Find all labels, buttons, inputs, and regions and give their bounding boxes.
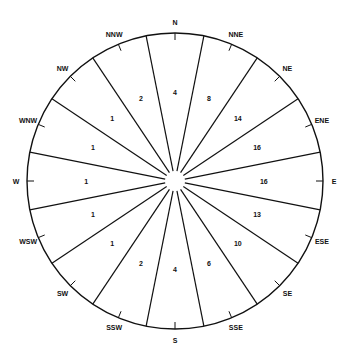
direction-label-w: W [13,178,20,185]
sector-divider [52,187,167,264]
direction-label-nnw: NNW [106,31,123,38]
direction-tick-wnw [38,124,44,127]
sector-divider [146,36,173,171]
sector-value-se: 10 [234,240,242,247]
direction-label-sw: SW [57,290,69,297]
direction-tick-sse [229,311,232,317]
sector-divider [93,58,170,173]
direction-label-se: SE [283,290,293,297]
sector-value-sse: 6 [207,260,211,267]
sector-value-wsw: 1 [91,211,95,218]
sector-value-nw: 1 [110,115,114,122]
sector-value-ssw: 2 [139,260,143,267]
direction-ticks [27,33,323,329]
sector-value-wnw: 1 [91,144,95,151]
sector-divider [183,99,298,176]
sector-value-ene: 16 [253,144,261,151]
direction-label-wnw: WNW [19,117,38,124]
wind-rose-diagram: NNNENEENEEESESESSESSSWSWWSWWWNWNWNNW 481… [0,0,344,360]
sector-value-s: 4 [173,266,177,273]
sector-values: 481416161310642111112 [84,89,268,274]
direction-label-ssw: SSW [106,324,122,331]
direction-tick-ssw [118,311,121,317]
sector-divider [177,36,204,171]
sector-divider [183,187,298,264]
direction-label-ese: ESE [315,238,329,245]
direction-tick-ene [305,124,311,127]
sector-value-ese: 13 [253,211,261,218]
direction-labels: NNNENEENEEESESESSESSSWSWWSWWWNWNWNNW [13,19,337,344]
direction-tick-sw [70,281,75,286]
sector-divider [52,99,167,176]
sector-divider [181,58,258,173]
direction-label-ene: ENE [315,117,330,124]
direction-tick-nne [229,44,232,50]
direction-label-sse: SSE [229,324,243,331]
sector-divider [93,189,170,304]
direction-tick-ne [275,76,280,81]
direction-label-ne: NE [283,65,293,72]
sector-value-e: 16 [260,178,268,185]
sector-divider [185,152,320,179]
direction-tick-se [275,281,280,286]
direction-label-nne: NNE [228,31,243,38]
direction-label-e: E [332,178,337,185]
sector-divider [146,191,173,326]
sector-divider [30,183,165,210]
sector-value-n: 4 [173,89,177,96]
direction-tick-ese [305,235,311,238]
direction-tick-nnw [118,44,121,50]
direction-tick-nw [70,76,75,81]
direction-tick-wsw [38,235,44,238]
sector-divider [185,183,320,210]
sector-divider [177,191,204,326]
direction-label-s: S [173,337,178,344]
direction-label-n: N [172,19,177,26]
sector-value-w: 1 [84,178,88,185]
sector-divider [30,152,165,179]
sector-value-ne: 14 [234,115,242,122]
sector-value-sw: 1 [110,240,114,247]
sector-divider [181,189,258,304]
direction-label-wsw: WSW [19,238,37,245]
direction-label-nw: NW [57,65,69,72]
sector-value-nnw: 2 [139,95,143,102]
sector-value-nne: 8 [207,95,211,102]
